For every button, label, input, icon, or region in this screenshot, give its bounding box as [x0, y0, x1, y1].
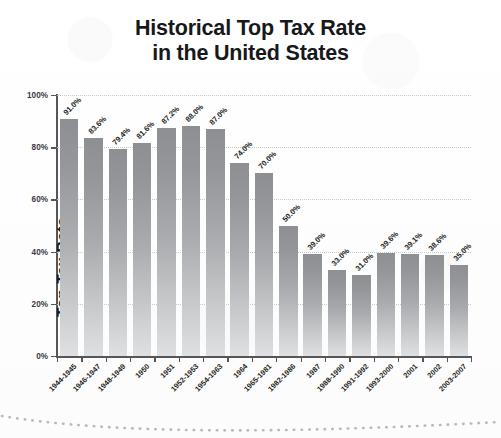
bar: 39.6% [377, 253, 396, 356]
bar-group: 87.0% [203, 95, 227, 356]
bar: 74.0% [230, 163, 249, 356]
x-axis-tick [447, 356, 448, 362]
bar: 83.6% [84, 138, 103, 356]
bar-value-label: 91.0% [62, 95, 84, 117]
y-axis-tick-label: 20% [32, 299, 48, 308]
bar-value-label: 38.6% [427, 232, 449, 254]
bar: 87.0% [206, 129, 225, 356]
x-axis-tick [422, 356, 423, 362]
bar-value-label: 39.0% [305, 231, 327, 253]
bar-value-label: 33.0% [330, 246, 352, 268]
bar-value-label: 39.6% [378, 229, 400, 251]
x-axis-tick [276, 356, 277, 362]
bar: 50.0% [279, 226, 298, 357]
x-axis-tick [106, 356, 107, 362]
bar: 35.0% [450, 265, 469, 356]
y-axis-tick-label: 80% [32, 143, 48, 152]
bar-value-label: 70.0% [257, 150, 279, 172]
bar-group: 79.4% [106, 95, 130, 356]
bar: 39.0% [303, 254, 322, 356]
bar-group: 39.0% [301, 95, 325, 356]
bar-group: 70.0% [252, 95, 276, 356]
bar: 91.0% [60, 119, 79, 357]
bar-group: 33.0% [325, 95, 349, 356]
plot-area: Top Tax Rate 0%20%40%60%80%100% 91.0%83.… [57, 95, 471, 356]
bar-group: 87.2% [154, 95, 178, 356]
x-axis-tick [349, 356, 350, 362]
bar: 88.0% [182, 126, 201, 356]
x-axis-line [56, 356, 472, 358]
x-axis-tick [471, 356, 472, 362]
bar-group: 83.6% [81, 95, 105, 356]
x-axis-category-label: 2002 [426, 362, 444, 380]
bar-group: 39.1% [398, 95, 422, 356]
x-axis-tick [227, 356, 228, 362]
x-axis-category-label: 2001 [401, 362, 419, 380]
chart-title: Historical Top Tax Rate in the United St… [0, 16, 501, 66]
bar-value-label: 79.4% [111, 125, 133, 147]
bar-value-label: 74.0% [232, 139, 254, 161]
decorative-dotted-curve [0, 404, 501, 438]
bar-value-label: 39.1% [403, 230, 425, 252]
x-axis-category-label: 1951 [158, 362, 176, 380]
x-axis-category-label: 1950 [134, 362, 152, 380]
bar: 39.1% [401, 254, 420, 356]
bar-group: 91.0% [57, 95, 81, 356]
x-axis-tick [374, 356, 375, 362]
bar-value-label: 50.0% [281, 202, 303, 224]
bar-group: 35.0% [447, 95, 471, 356]
bar-group: 74.0% [227, 95, 251, 356]
bar: 33.0% [328, 270, 347, 356]
bar-group: 88.0% [179, 95, 203, 356]
bar-value-label: 87.0% [208, 105, 230, 127]
bar: 81.6% [133, 143, 152, 356]
x-axis-tick [81, 356, 82, 362]
x-axis-category-label: 1987 [304, 362, 322, 380]
bar: 31.0% [352, 275, 371, 356]
y-axis-tick-label: 100% [27, 91, 48, 100]
y-axis-tick-label: 60% [32, 195, 48, 204]
bar-value-label: 31.0% [354, 251, 376, 273]
x-axis-tick [252, 356, 253, 362]
bar-group: 31.0% [349, 95, 373, 356]
chart-title-line-2: in the United States [0, 41, 501, 66]
bar-value-label: 87.2% [159, 105, 181, 127]
bar: 79.4% [109, 149, 128, 356]
x-axis-tick [325, 356, 326, 362]
x-axis-tick [179, 356, 180, 362]
y-axis-tick-label: 40% [32, 247, 48, 256]
bar-value-label: 35.0% [451, 241, 473, 263]
bar-group: 39.6% [374, 95, 398, 356]
x-axis-tick [398, 356, 399, 362]
x-axis-tick [130, 356, 131, 362]
bar-group: 50.0% [276, 95, 300, 356]
bar: 87.2% [157, 128, 176, 356]
bar-group: 38.6% [422, 95, 446, 356]
bar-series: 91.0%83.6%79.4%81.6%87.2%88.0%87.0%74.0%… [57, 95, 471, 356]
bar-value-label: 88.0% [184, 103, 206, 125]
bar-value-label: 83.6% [86, 114, 108, 136]
x-axis-tick [154, 356, 155, 362]
y-axis-tick-label: 0% [36, 352, 48, 361]
chart-figure: Historical Top Tax Rate in the United St… [0, 0, 501, 438]
x-axis-tick [57, 356, 58, 362]
x-axis-tick [203, 356, 204, 362]
chart-title-line-1: Historical Top Tax Rate [135, 16, 366, 40]
bar-value-label: 81.6% [135, 119, 157, 141]
bar-group: 81.6% [130, 95, 154, 356]
bar: 70.0% [255, 173, 274, 356]
bar: 38.6% [425, 255, 444, 356]
x-axis-tick [301, 356, 302, 362]
x-axis-category-label: 1964 [231, 362, 249, 380]
